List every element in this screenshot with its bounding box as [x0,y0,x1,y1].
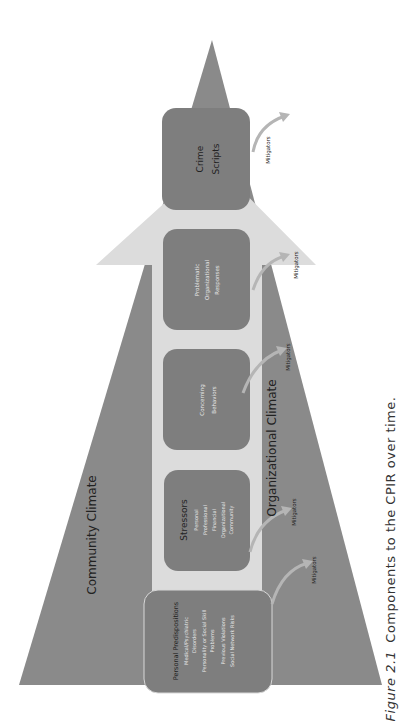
box-line: Responses [214,265,221,294]
box-line: Professional [202,505,208,535]
box-title: Stressors [179,499,189,541]
box-crime-scripts [162,108,250,210]
box-line: Scripts [211,143,221,174]
box-line: Community [228,505,235,534]
box-line: Problematic [194,264,200,297]
box-title: Personal Predispositions [172,601,180,680]
box-line: Previous Violations [220,617,226,665]
box-line: Personality or Social Skill [201,610,208,673]
box-line: Social Network Risks [229,615,235,667]
box-line: Organizational [220,502,227,538]
mitigator-label-2: Mitigators [291,498,298,526]
box-line: Concerning [199,384,206,415]
mitigator-label-1: Mitigators [311,556,318,584]
mitigator-label-3: Mitigators [285,343,292,371]
organizational-climate-label: Organizational Climate [265,379,279,516]
box-line: Personal [193,509,199,530]
box-line: Medical/Psychiatric [183,617,190,665]
caption-text: Components to the CPIR over time. [383,396,398,642]
box-line: Crime [195,145,205,172]
box-line: Financial [211,509,217,531]
box-line: Organizational [204,259,211,300]
figure-label: Figure 2.1 [383,650,398,721]
mitigator-label-4: Mitigators [293,251,300,279]
box-concerning-behaviors [163,349,250,450]
mitigator-label-5: Mitigators [265,136,272,164]
box-line: Problems [209,629,215,652]
figure-caption: Figure 2.1Components to the CPIR over ti… [375,420,405,697]
box-line: Behaviors [211,386,217,413]
community-climate-label: Community Climate [85,475,99,594]
box-line: Disorders [191,629,197,653]
box-personal-predispositions [144,590,272,693]
box-text-problematic-responses: Problematic Organizational Responses [194,259,221,300]
